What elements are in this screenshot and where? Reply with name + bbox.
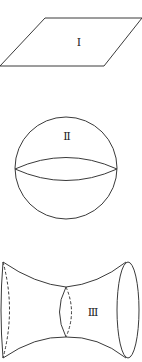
plane-figure: Ⅰ (0, 18, 142, 66)
hyperboloid-bottom-edge (3, 337, 126, 358)
left-rim-front (3, 262, 10, 358)
left-rim-back (1, 262, 3, 358)
hyperboloid-label: Ⅲ (88, 306, 99, 319)
right-rim-ellipse (117, 262, 139, 358)
neck-ellipse-front (60, 287, 67, 337)
plane-label: Ⅰ (77, 36, 81, 49)
hyperboloid-figure: Ⅲ (1, 262, 139, 358)
hyperboloid-top-edge (3, 262, 126, 287)
neck-ellipse-back (66, 287, 72, 337)
geometry-diagram: Ⅰ Ⅱ Ⅲ (0, 0, 142, 362)
sphere-equator-back (15, 158, 117, 170)
sphere-label: Ⅱ (63, 130, 70, 143)
sphere-equator-front (15, 169, 117, 181)
sphere-figure: Ⅱ (15, 117, 117, 219)
parallelogram-shape (0, 18, 142, 66)
